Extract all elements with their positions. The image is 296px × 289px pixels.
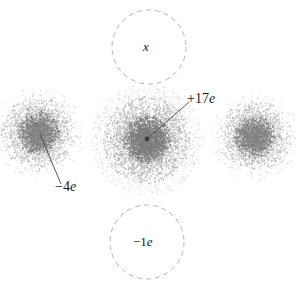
top-dashed-circle bbox=[112, 10, 186, 84]
center-nucleus-dot bbox=[145, 137, 150, 142]
center-charge-leader bbox=[147, 102, 189, 139]
left-charge-leader bbox=[40, 134, 61, 184]
left-charge-label: −4e bbox=[55, 180, 76, 194]
top-circle-label: x bbox=[143, 40, 149, 53]
electron-cloud-figure: +17e −4e x −1e bbox=[0, 0, 296, 289]
center-charge-label: +17e bbox=[187, 92, 215, 106]
bottom-circle-label: −1e bbox=[133, 235, 153, 248]
